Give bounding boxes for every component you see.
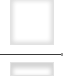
thumbnail-item-2[interactable] <box>10 62 54 73</box>
divider-end-marker <box>61 53 63 56</box>
section-divider <box>0 54 62 55</box>
thumbnail-item-1[interactable] <box>10 0 54 45</box>
